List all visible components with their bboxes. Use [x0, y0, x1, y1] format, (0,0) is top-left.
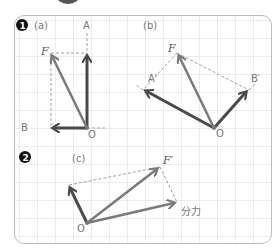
point-f-prime-c-label: F′	[162, 154, 174, 167]
panel-c: (c) F′ 分力 O	[69, 153, 201, 234]
force-decomposition-diagram: 1 (a) A F B O (b) F A′ B′ O	[0, 0, 278, 249]
origin-o-dot	[85, 126, 89, 130]
component-force-label: 分力	[181, 205, 201, 217]
panel-b: (b) F A′ B′ O	[136, 20, 261, 139]
right-parallel-dashed	[160, 167, 177, 202]
origin-o-b-dot	[212, 126, 216, 130]
point-a-label: A	[83, 20, 90, 31]
short-component-arrow	[70, 188, 87, 223]
section-2-badge: 2	[19, 151, 31, 163]
section-1-badge: 1	[16, 19, 28, 31]
point-o-c-label: O	[77, 223, 85, 234]
point-o-label: O	[88, 129, 96, 140]
origin-o-c-dot	[85, 221, 89, 225]
svg-text:2: 2	[23, 153, 29, 163]
point-o-b-label: O	[216, 128, 224, 139]
panel-b-label: (b)	[143, 20, 157, 31]
point-b-label: B	[21, 122, 28, 133]
panel-a: (a) A F B O	[21, 20, 106, 140]
force-f-arrow	[52, 56, 87, 128]
b-prime-axis-dashed	[249, 84, 255, 90]
svg-text:1: 1	[20, 21, 26, 31]
panel-c-label: (c)	[72, 153, 85, 164]
panel-a-label: (a)	[34, 20, 48, 31]
point-f-label: F	[40, 45, 49, 58]
point-b-prime-label: B′	[251, 73, 261, 84]
a-prime-axis-dashed	[136, 85, 143, 90]
component-b-prime-arrow	[214, 92, 246, 128]
point-f-prime-label: F	[167, 42, 176, 55]
f-to-a-prime-dashed	[143, 53, 177, 90]
